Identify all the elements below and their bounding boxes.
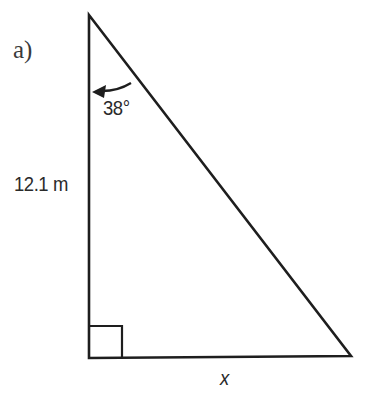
- part-label: a): [13, 36, 32, 64]
- diagram-canvas: a) 38° 12.1 m x: [0, 0, 371, 396]
- right-triangle: [89, 15, 351, 358]
- right-angle-marker: [89, 326, 122, 358]
- base-side-label: x: [220, 366, 229, 390]
- angle-arrow-icon: [102, 83, 131, 91]
- vertical-side-label: 12.1 m: [14, 172, 68, 196]
- triangle-figure: [0, 0, 371, 396]
- angle-label: 38°: [103, 96, 130, 120]
